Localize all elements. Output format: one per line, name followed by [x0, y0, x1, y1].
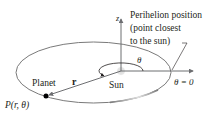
orbit-diagram: Perihelion position (point closest to th…: [0, 0, 223, 119]
perihelion-label-line2: (point closest: [130, 23, 181, 34]
sun-label: Sun: [109, 80, 124, 90]
perihelion-label-line1: Perihelion position: [130, 10, 202, 20]
z-axis-label: z: [115, 14, 120, 23]
perihelion-leader-line: [172, 43, 187, 70]
perihelion-label-line3: to the sun): [130, 36, 170, 47]
orbit-direction-arrow: [110, 90, 158, 103]
r-vector-label: r: [72, 76, 77, 87]
theta-zero-label: θ = 0: [174, 77, 194, 87]
point-label: P(r, θ): [4, 100, 29, 111]
theta-label: θ: [137, 55, 142, 65]
planet-label: Planet: [32, 78, 56, 88]
planet-dot: [44, 94, 49, 99]
